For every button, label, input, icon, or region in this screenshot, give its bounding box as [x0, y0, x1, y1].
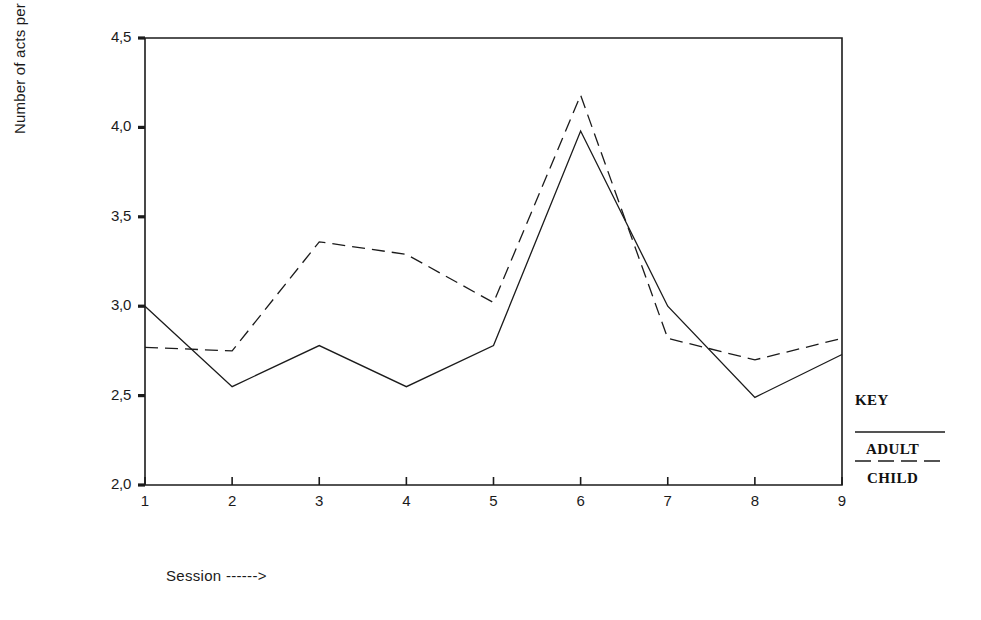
- legend-label-child: CHILD: [867, 470, 918, 487]
- y-tick-label: 4,0: [93, 117, 131, 134]
- x-tick-label: 2: [222, 492, 242, 509]
- series-line-child: [145, 95, 842, 360]
- y-axis-title: Number of acts per theme: [0, 0, 40, 210]
- legend-title: KEY: [855, 392, 889, 409]
- x-tick-label: 8: [745, 492, 765, 509]
- x-tick-label: 1: [135, 492, 155, 509]
- x-tick-label: 5: [484, 492, 504, 509]
- x-axis-title: Session ------>: [166, 567, 267, 584]
- series-line-adult: [145, 131, 842, 397]
- data-series: [145, 95, 842, 397]
- x-tick-label: 9: [832, 492, 852, 509]
- legend-label-adult: ADULT: [866, 441, 919, 458]
- x-tick-label: 4: [396, 492, 416, 509]
- plot-frame: [145, 38, 842, 485]
- x-tick-label: 7: [658, 492, 678, 509]
- y-tick-label: 2,0: [93, 475, 131, 492]
- y-tick-label: 3,0: [93, 296, 131, 313]
- axes: [138, 38, 842, 485]
- y-tick-label: 3,5: [93, 207, 131, 224]
- x-tick-label: 3: [309, 492, 329, 509]
- y-tick-label: 4,5: [93, 28, 131, 45]
- y-tick-label: 2,5: [93, 386, 131, 403]
- line-chart: Number of acts per theme Session ------>…: [0, 0, 981, 620]
- plot-area: [0, 0, 981, 620]
- x-tick-label: 6: [571, 492, 591, 509]
